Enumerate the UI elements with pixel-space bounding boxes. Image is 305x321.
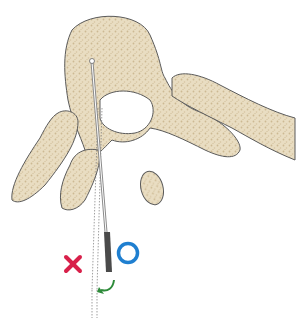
inferior-articular-process <box>60 149 99 210</box>
correct-marker-icon <box>119 244 138 263</box>
wrong-marker-icon <box>66 257 80 271</box>
spinal-canal <box>100 91 153 134</box>
spinous-fragment <box>137 169 167 208</box>
rotation-arrow-icon <box>97 280 114 294</box>
vertebra-diagram <box>0 0 305 321</box>
